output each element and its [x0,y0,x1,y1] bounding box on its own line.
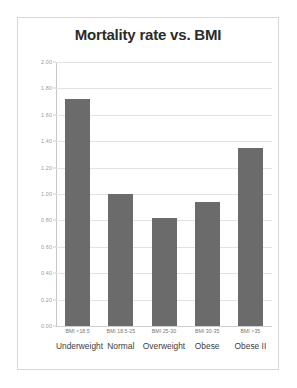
x-axis-range-label: BMI >35 [229,328,272,334]
x-axis-label-group: BMI 30-35Obese [186,328,229,351]
bar [65,99,90,326]
y-tick-label: 1.60 [41,112,56,118]
chart-title: Mortality rate vs. BMI [18,26,278,43]
plot-area: 0.000.200.400.600.801.001.201.401.601.80… [56,62,272,326]
x-axis-range-label: BMI 18.5-25 [99,328,142,334]
x-axis-label-group: BMI >35Obese II [229,328,272,351]
y-tick-label: 0.00 [41,323,56,329]
x-axis-range-label: BMI <18.5 [56,328,99,334]
bar [238,148,263,326]
y-tick-label: 1.00 [41,191,56,197]
y-tick-label: 0.60 [41,244,56,250]
y-tick-label: 1.40 [41,138,56,144]
x-axis-category-label: Normal [99,341,142,351]
x-axis-range-label: BMI 30-35 [186,328,229,334]
y-tick-label: 0.40 [41,270,56,276]
x-axis-category-label: Underweight [56,341,99,351]
x-axis-label-group: BMI 25-30Overweight [142,328,185,351]
chart-page: Mortality rate vs. BMI 0.000.200.400.600… [0,0,297,388]
bar [108,194,133,326]
x-axis-label-group: BMI <18.5Underweight [56,328,99,351]
chart-panel: Mortality rate vs. BMI 0.000.200.400.600… [17,17,279,370]
x-axis-category-label: Obese [186,341,229,351]
y-tick-label: 2.00 [41,59,56,65]
y-tick-label: 0.20 [41,297,56,303]
x-axis-category-label: Obese II [229,341,272,351]
bar [152,218,177,326]
y-tick-label: 1.80 [41,85,56,91]
gridline [56,326,272,327]
x-axis-category-label: Overweight [142,341,185,351]
x-axis-labels: BMI <18.5UnderweightBMI 18.5-25NormalBMI… [56,328,272,368]
bar [195,202,220,326]
bar-series [56,62,272,326]
x-axis-label-group: BMI 18.5-25Normal [99,328,142,351]
y-tick-label: 1.20 [41,165,56,171]
x-axis-range-label: BMI 25-30 [142,328,185,334]
y-tick-label: 0.80 [41,217,56,223]
